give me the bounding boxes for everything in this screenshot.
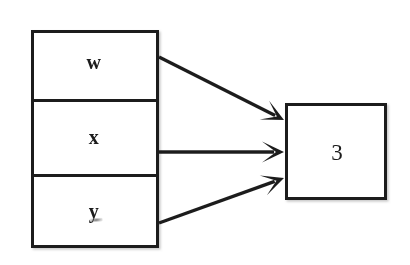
input-cell-label-y: y [89,201,100,221]
arrow-x-to-node [159,142,284,163]
input-cell-label-x: x [89,127,100,147]
arrow-y-to-node [159,176,284,223]
diagram-canvas: w x y 3 [0,0,410,265]
diagram-vector-layer [0,0,410,265]
output-node-label: 3 [331,141,343,164]
input-cell-label-w: w [87,52,102,72]
arrow-w-to-node [159,57,284,120]
